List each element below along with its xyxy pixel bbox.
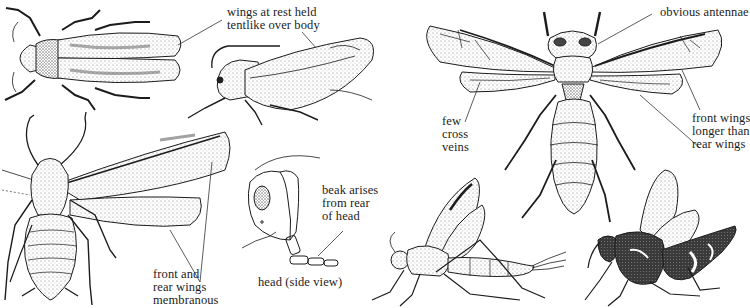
label-front-wings-longer: front wings longer than rear wings	[692, 112, 750, 151]
leafhopper-side-drawing	[188, 38, 374, 125]
label-beak-arises: beak arises from rear of head	[322, 184, 378, 223]
leafhopper-dorsal-drawing	[5, 8, 181, 110]
insect-illustrations	[0, 0, 750, 308]
label-obvious-antennae: obvious antennae	[660, 6, 749, 19]
label-few-cross-veins: few cross veins	[442, 115, 469, 154]
label-wings-at-rest: wings at rest held tentlike over body	[227, 6, 320, 32]
label-head-side-view: head (side view)	[258, 276, 342, 289]
banded-wasp-side-drawing	[585, 170, 736, 306]
insect-comparison-figure: wings at rest held tentlike over body fr…	[0, 0, 750, 308]
ichneumon-side-drawing	[372, 178, 566, 306]
label-front-rear-membranous: front and rear wings membranous	[153, 268, 219, 307]
